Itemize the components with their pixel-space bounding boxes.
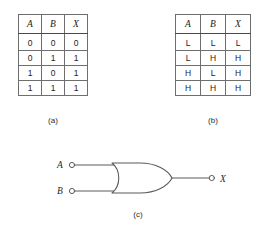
table-row: H H H: [176, 81, 251, 96]
output-terminal-x: [209, 175, 214, 180]
table-row: L H H: [176, 51, 251, 66]
cell-b: H: [201, 51, 226, 66]
cell-x: 1: [65, 51, 88, 66]
table-header-row: A B X: [176, 15, 251, 34]
caption-c: (c): [108, 210, 168, 219]
cell-x: 1: [65, 81, 88, 96]
input-terminal-a: [69, 162, 74, 167]
table-row: 1 1 1: [19, 81, 88, 96]
cell-x: 0: [65, 34, 88, 51]
cell-b: 1: [42, 81, 65, 96]
input-terminal-b: [69, 188, 74, 193]
cell-a: H: [176, 81, 201, 96]
input-label-b: B: [57, 186, 63, 196]
or-gate-body: [112, 163, 172, 193]
cell-a: H: [176, 66, 201, 81]
column-header-x: X: [65, 15, 88, 34]
table-header-row: A B X: [19, 15, 88, 34]
cell-b: 1: [42, 51, 65, 66]
logic-gate-figure: A B X 0 0 0 0 1 1 1 0 1 1 1 1: [0, 0, 274, 233]
output-label-x: X: [219, 174, 227, 184]
cell-a: L: [176, 51, 201, 66]
column-header-a: A: [176, 15, 201, 34]
truth-table-levels: A B X L L L L H H H L H H H H: [175, 14, 251, 96]
column-header-b: B: [42, 15, 65, 34]
input-label-a: A: [56, 160, 63, 170]
table-row: H L H: [176, 66, 251, 81]
cell-x: 1: [65, 66, 88, 81]
table-row: 1 0 1: [19, 66, 88, 81]
cell-a: 1: [19, 81, 42, 96]
column-header-x: X: [226, 15, 251, 34]
or-gate-diagram: A B X: [0, 140, 274, 220]
cell-x: H: [226, 66, 251, 81]
cell-b: 0: [42, 34, 65, 51]
caption-a: (a): [18, 116, 88, 125]
table-row: 0 0 0: [19, 34, 88, 51]
truth-table-binary: A B X 0 0 0 0 1 1 1 0 1 1 1 1: [18, 14, 88, 96]
column-header-b: B: [201, 15, 226, 34]
column-header-a: A: [19, 15, 42, 34]
cell-x: H: [226, 51, 251, 66]
cell-b: L: [201, 66, 226, 81]
table-row: 0 1 1: [19, 51, 88, 66]
cell-b: L: [201, 34, 226, 51]
cell-a: 1: [19, 66, 42, 81]
cell-a: L: [176, 34, 201, 51]
cell-a: 0: [19, 34, 42, 51]
cell-x: H: [226, 81, 251, 96]
cell-a: 0: [19, 51, 42, 66]
cell-b: H: [201, 81, 226, 96]
caption-b: (b): [175, 116, 251, 125]
table-row: L L L: [176, 34, 251, 51]
cell-b: 0: [42, 66, 65, 81]
cell-x: L: [226, 34, 251, 51]
